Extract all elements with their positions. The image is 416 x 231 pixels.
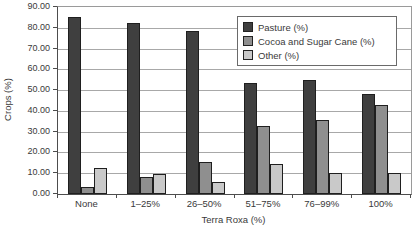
bar bbox=[199, 162, 212, 194]
bar bbox=[270, 164, 283, 194]
bar bbox=[375, 105, 388, 194]
x-tick-mark bbox=[234, 194, 235, 198]
bar bbox=[257, 126, 270, 194]
legend-label: Other (%) bbox=[258, 50, 299, 61]
bar-chart-figure: Crops (%) 0.0010.0020.0030.0040.0050.006… bbox=[0, 0, 416, 231]
legend-item: Cocoa and Sugar Cane (%) bbox=[243, 34, 391, 48]
bar-group-2 bbox=[117, 7, 176, 194]
x-tick-label: 1–25% bbox=[115, 198, 175, 209]
y-tick-label: 60.00 bbox=[0, 63, 50, 73]
y-tick-label: 90.00 bbox=[0, 1, 50, 11]
bar-group-3 bbox=[176, 7, 235, 194]
bar bbox=[153, 174, 166, 194]
x-tick-label: 100% bbox=[351, 198, 411, 209]
x-tick-label: 76–99% bbox=[292, 198, 352, 209]
bar bbox=[303, 80, 316, 194]
bar bbox=[362, 94, 375, 194]
bar bbox=[94, 168, 107, 194]
legend-label: Cocoa and Sugar Cane (%) bbox=[258, 36, 375, 47]
bar bbox=[329, 173, 342, 194]
y-tick-mark bbox=[53, 110, 57, 111]
legend-swatch-icon bbox=[243, 50, 253, 60]
y-tick-label: 30.00 bbox=[0, 126, 50, 136]
y-tick-mark bbox=[53, 89, 57, 90]
bar-group-1 bbox=[58, 7, 117, 194]
bar bbox=[244, 83, 257, 194]
legend-item: Pasture (%) bbox=[243, 20, 391, 34]
bar bbox=[388, 173, 401, 194]
bar bbox=[140, 177, 153, 194]
x-tick-mark bbox=[175, 194, 176, 198]
y-tick-mark bbox=[53, 48, 57, 49]
y-tick-label: 80.00 bbox=[0, 22, 50, 32]
y-tick-mark bbox=[53, 172, 57, 173]
x-tick-label: 51–75% bbox=[233, 198, 293, 209]
legend-item: Other (%) bbox=[243, 48, 391, 62]
y-tick-mark bbox=[53, 68, 57, 69]
y-tick-mark bbox=[53, 27, 57, 28]
y-tick-label: 0.00 bbox=[0, 188, 50, 198]
legend-label: Pasture (%) bbox=[258, 22, 308, 33]
bar bbox=[127, 23, 140, 194]
y-axis-title: Crops (%) bbox=[2, 6, 13, 193]
y-tick-label: 70.00 bbox=[0, 43, 50, 53]
bar bbox=[81, 187, 94, 194]
y-tick-mark bbox=[53, 131, 57, 132]
x-tick-mark bbox=[410, 194, 411, 198]
x-tick-mark bbox=[57, 194, 58, 198]
y-tick-mark bbox=[53, 6, 57, 7]
legend-swatch-icon bbox=[243, 36, 253, 46]
y-tick-label: 40.00 bbox=[0, 105, 50, 115]
x-tick-mark bbox=[292, 194, 293, 198]
x-tick-mark bbox=[351, 194, 352, 198]
x-tick-label: 26–50% bbox=[174, 198, 234, 209]
x-axis-title: Terra Roxa (%) bbox=[57, 214, 410, 225]
bar bbox=[68, 17, 81, 194]
bar bbox=[212, 182, 225, 194]
legend-swatch-icon bbox=[243, 22, 253, 32]
bar bbox=[186, 31, 199, 194]
bar bbox=[316, 120, 329, 194]
y-tick-label: 50.00 bbox=[0, 84, 50, 94]
x-tick-label: None bbox=[56, 198, 116, 209]
y-tick-label: 20.00 bbox=[0, 146, 50, 156]
y-tick-mark bbox=[53, 151, 57, 152]
y-tick-label: 10.00 bbox=[0, 167, 50, 177]
x-tick-mark bbox=[116, 194, 117, 198]
legend: Pasture (%)Cocoa and Sugar Cane (%)Other… bbox=[237, 16, 397, 66]
